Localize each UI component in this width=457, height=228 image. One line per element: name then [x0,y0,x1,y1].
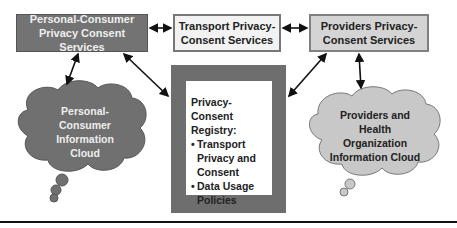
providers-cloud-line1: Providers and [320,108,430,122]
providers-services-line2: Consent Services [321,33,418,47]
personal-cloud-line4: Cloud [40,146,130,160]
providers-cloud-line4: Information Cloud [320,150,430,164]
registry-bullet-1: • Transport Privacy and Consent [191,137,268,179]
registry-bullet-1-line3: Consent [197,165,256,179]
personal-consumer-services-box: Personal-Consumer Privacy Consent Servic… [16,14,148,52]
personal-consumer-services-line2: Privacy Consent Services [17,26,147,54]
registry-bullet-2: • Data Usage Policies [191,179,268,207]
providers-services-box: Providers Privacy- Consent Services [309,14,429,52]
personal-cloud-label: Personal- Consumer Information Cloud [40,104,130,160]
personal-cloud-line2: Consumer [40,118,130,132]
registry-bullet-2-line2: Policies [197,193,254,207]
registry-title-line1: Privacy-Consent [191,95,268,123]
personal-cloud-line1: Personal- [40,104,130,118]
providers-cloud-line2: Health [320,122,430,136]
personal-cloud-line3: Information [40,132,130,146]
registry-bullet-1-line1: Transport [197,137,256,151]
registry-bullet-1-line2: Privacy and [197,151,256,165]
registry-bullet-2-line1: Data Usage [197,179,254,193]
transport-services-line1: Transport Privacy- [179,19,276,33]
registry-frame: Privacy-Consent Registry: • Transport Pr… [171,65,286,213]
providers-services-line1: Providers Privacy- [321,19,418,33]
providers-cloud-label: Providers and Health Organization Inform… [320,108,430,164]
registry-panel: Privacy-Consent Registry: • Transport Pr… [186,81,272,195]
personal-consumer-services-line1: Personal-Consumer [17,12,147,26]
registry-title-line2: Registry: [191,123,268,137]
providers-cloud-line3: Organization [320,136,430,150]
horizontal-rule [0,221,457,223]
transport-services-box: Transport Privacy- Consent Services [173,14,281,52]
transport-services-line2: Consent Services [179,33,276,47]
